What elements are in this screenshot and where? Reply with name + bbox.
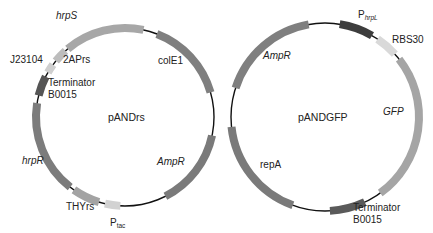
pANDGFP-name: pANDGFP xyxy=(298,111,348,123)
feature-hrpr xyxy=(36,103,70,187)
label-repA: repA xyxy=(260,159,281,170)
feature-hrps xyxy=(68,28,144,49)
label-2APrs: 2APrs xyxy=(63,54,90,65)
feature-gfp xyxy=(380,59,419,193)
feature-terminator-b0015 xyxy=(39,77,46,96)
label-hrpS: hrpS xyxy=(56,10,77,21)
feature-phrpl xyxy=(340,24,372,35)
label-AmpR-right: AmpR xyxy=(262,50,291,61)
label-colE1: colE1 xyxy=(158,55,183,66)
feature-j23104 xyxy=(48,65,53,73)
label-terminator-left-1: Terminator xyxy=(48,77,96,88)
label-RBS30: RBS30 xyxy=(392,34,424,45)
label-Ptac-sub: tac xyxy=(117,222,126,229)
label-THYrs: THYrs xyxy=(66,201,94,212)
label-PhrpL-sub: hrpL xyxy=(365,14,378,22)
label-hrpR: hrpR xyxy=(22,155,44,166)
label-GFP: GFP xyxy=(383,106,404,117)
label-terminator-right-1: Terminator xyxy=(353,202,401,213)
label-AmpR-left: AmpR xyxy=(156,156,185,167)
label-Ptac: Ptac xyxy=(110,217,126,229)
feature-ptac xyxy=(105,204,120,206)
label-PhrpL: PhrpL xyxy=(358,9,378,22)
label-terminator-right-2: B0015 xyxy=(353,214,382,225)
plasmid-maps: pANDrs hrpS 2APrs J23104 Terminator B001… xyxy=(0,0,433,233)
pANDrs-name: pANDrs xyxy=(108,111,145,123)
label-J23104: J23104 xyxy=(10,54,43,65)
label-terminator-left-2: B0015 xyxy=(48,89,77,100)
